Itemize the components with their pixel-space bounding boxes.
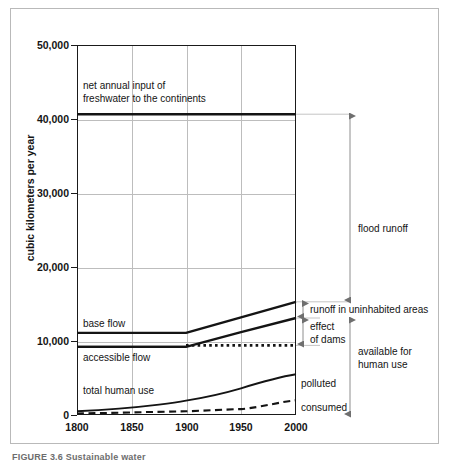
annotation-runoff-uninhabited: runoff in uninhabited areas (310, 303, 428, 316)
figure-container: 50,000 40,000 30,000 20,000 10,000 0 cub… (0, 0, 453, 466)
figure-caption: FIGURE 3.6 Sustainable water (12, 452, 146, 462)
annotation-available-line1: available for (358, 345, 412, 358)
annotation-available-line2: human use (358, 358, 407, 371)
annotation-effect-of-dams-line1: effect (310, 320, 334, 333)
annotation-polluted: polluted (301, 377, 336, 390)
annotation-consumed: consumed (301, 401, 347, 414)
annotation-effect-of-dams-line2: of dams (310, 333, 346, 346)
annotation-flood-runoff: flood runoff (358, 222, 408, 235)
